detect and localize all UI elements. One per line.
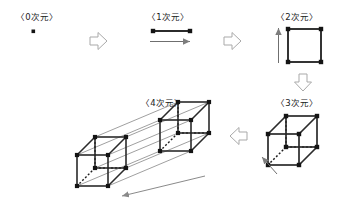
- figure-canvas: [0, 0, 344, 215]
- dim3-shape: [266, 114, 319, 167]
- dim4-connector-lines: [77, 102, 209, 186]
- dim3-visible-edges: [268, 116, 317, 165]
- dim4-extrusion-arrow: [122, 176, 205, 196]
- dim4-shape: [75, 100, 211, 188]
- block-arrow-left-icon: [230, 128, 247, 145]
- dim0-shape: [32, 30, 36, 34]
- dim4-cube-near: [75, 135, 128, 188]
- dimension-progression-figure: 〈0次元〉 〈1次元〉 〈2次元〉 〈3次元〉 〈4次元〉: [0, 0, 344, 215]
- dim4-cube-far: [158, 100, 211, 153]
- dim2-shape: [286, 27, 323, 64]
- dim1-shape: [151, 29, 192, 33]
- block-arrow-down-icon: [295, 74, 312, 91]
- block-arrow-right-icon-b: [224, 33, 241, 50]
- block-arrow-right-icon-a: [90, 33, 107, 50]
